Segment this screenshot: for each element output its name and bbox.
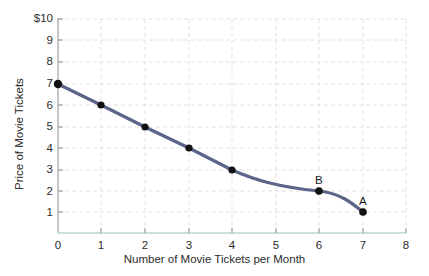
data-point-b xyxy=(315,187,323,195)
x-axis-ticks xyxy=(101,228,406,233)
data-point xyxy=(185,144,192,151)
y-tick-label-8: 8 xyxy=(8,56,53,68)
data-point-a xyxy=(359,208,367,216)
y-tick-label-9: 9 xyxy=(8,35,53,47)
x-tick-label-0: 0 xyxy=(44,240,72,252)
x-tick-label-7: 7 xyxy=(349,240,377,252)
point-label-a: A xyxy=(359,196,367,208)
data-point xyxy=(141,123,148,130)
y-tick-label-1: 1 xyxy=(8,207,53,219)
data-point xyxy=(228,166,235,173)
data-point xyxy=(54,80,62,88)
demand-curve-chart: $10 9 8 7 6 5 4 3 2 1 0 1 2 3 4 5 6 7 8 … xyxy=(0,0,429,276)
x-tick-label-3: 3 xyxy=(175,240,203,252)
x-tick-label-1: 1 xyxy=(87,240,115,252)
x-tick-label-8: 8 xyxy=(392,240,420,252)
x-tick-label-2: 2 xyxy=(131,240,159,252)
plot-area xyxy=(0,0,429,276)
x-tick-label-5: 5 xyxy=(262,240,290,252)
x-axis-title: Number of Movie Tickets per Month xyxy=(0,254,429,266)
x-tick-label-4: 4 xyxy=(218,240,246,252)
data-point xyxy=(97,101,104,108)
x-tick-label-6: 6 xyxy=(305,240,333,252)
y-tick-label-10: $10 xyxy=(8,13,53,25)
y-axis-title: Price of Movie Tickets xyxy=(14,78,26,190)
y-axis-ticks xyxy=(58,19,63,212)
point-label-b: B xyxy=(315,175,323,187)
